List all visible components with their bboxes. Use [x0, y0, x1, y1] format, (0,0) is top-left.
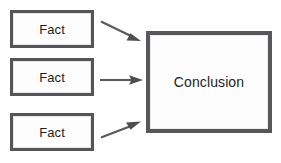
fact-box-2: Fact [10, 58, 94, 96]
arrow-fact1-to-conclusion [101, 22, 141, 42]
conclusion-box-label: Conclusion [174, 75, 244, 89]
fact-box-2-label: Fact [39, 71, 65, 84]
fact-box-3-label: Fact [39, 126, 65, 139]
fact-box-3: Fact [10, 113, 94, 151]
diagram-canvas: Fact Fact Fact Conclusion [0, 0, 281, 163]
fact-box-1-label: Fact [39, 23, 65, 36]
arrow-fact3-to-conclusion [101, 122, 141, 138]
conclusion-box: Conclusion [146, 31, 272, 133]
fact-box-1: Fact [10, 10, 94, 48]
arrow-fact2-to-conclusion [100, 75, 143, 85]
